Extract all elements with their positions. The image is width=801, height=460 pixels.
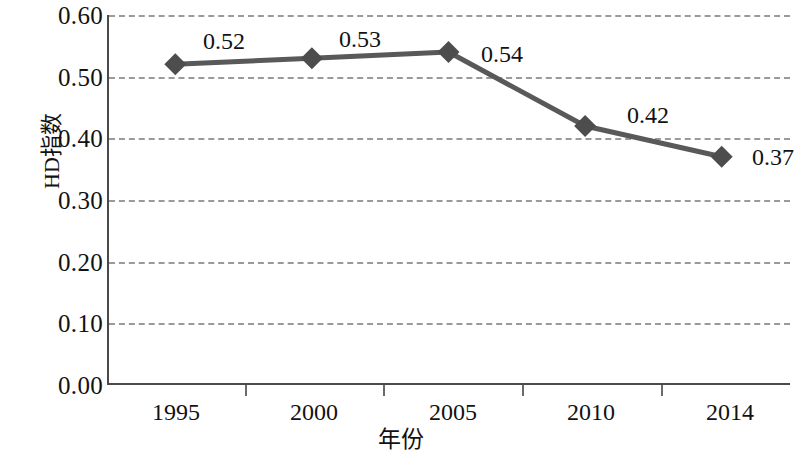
data-point-2005[interactable] (440, 39, 466, 65)
chart-figure: 0.60 0.50 0.40 0.30 0.20 0.10 0.00 HD指数 … (0, 0, 801, 460)
x-tick-label-2005: 2005 (383, 399, 523, 425)
gridline-0.30 (109, 200, 790, 202)
x-tick-label-2000: 2000 (244, 399, 384, 425)
x-tick-label-1995: 1995 (106, 399, 246, 425)
data-label-1995: 0.52 (203, 29, 245, 53)
gridline-0.60 (109, 15, 790, 17)
gridline-0.10 (109, 323, 790, 325)
data-label-2005: 0.54 (481, 42, 523, 66)
x-tickmark-1 (383, 385, 385, 396)
data-point-2000[interactable] (301, 46, 327, 72)
x-tickmark-3 (661, 385, 663, 396)
x-tick-label-2014: 2014 (660, 399, 800, 425)
y-tick-label-6: 0.00 (7, 373, 103, 398)
y-tick-label-5: 0.10 (7, 311, 103, 336)
gridline-0.20 (109, 262, 790, 264)
y-tick-label-0: 0.60 (7, 3, 103, 28)
x-tick-label-2010: 2010 (521, 399, 661, 425)
data-point-2010[interactable] (578, 113, 604, 139)
y-tick-label-1: 0.50 (7, 65, 103, 90)
data-label-2000: 0.53 (339, 27, 381, 51)
plot-area (107, 15, 790, 385)
x-tickmark-2 (522, 385, 524, 396)
x-tickmark-0 (245, 385, 247, 396)
gridline-0.40 (109, 138, 790, 140)
data-point-1995[interactable] (163, 52, 189, 78)
data-point-2014[interactable] (717, 144, 743, 170)
data-label-2014: 0.37 (752, 145, 794, 169)
y-axis-title: HD指数 (41, 91, 63, 211)
y-axis-ticks: 0.60 0.50 0.40 0.30 0.20 0.10 0.00 (0, 0, 103, 460)
gridline-0.50 (109, 77, 790, 79)
y-tick-label-4: 0.20 (7, 250, 103, 275)
x-axis-title: 年份 (0, 428, 801, 451)
data-label-2010: 0.42 (627, 103, 669, 127)
